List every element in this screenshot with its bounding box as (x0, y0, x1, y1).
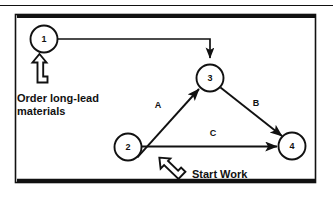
node-3-label: 3 (207, 73, 212, 83)
start-work-label: Start Work (192, 168, 248, 180)
node-1[interactable]: 1 (31, 26, 58, 53)
edge-label-b: B (253, 98, 260, 108)
edge-label-a: A (155, 100, 162, 110)
node-4-label: 4 (289, 141, 294, 151)
node-4[interactable]: 4 (279, 133, 306, 160)
network-diagram: A B C 1 2 3 4 Or (0, 0, 333, 198)
order-long-lead-line2: materials (17, 105, 65, 117)
edge-label-c: C (210, 128, 217, 138)
node-1-label: 1 (41, 34, 46, 44)
order-long-lead-line1: Order long-lead (17, 92, 99, 104)
figure-root: A B C 1 2 3 4 Or (0, 0, 333, 198)
node-2[interactable]: 2 (115, 134, 142, 161)
node-2-label: 2 (125, 142, 130, 152)
node-3[interactable]: 3 (197, 65, 224, 92)
